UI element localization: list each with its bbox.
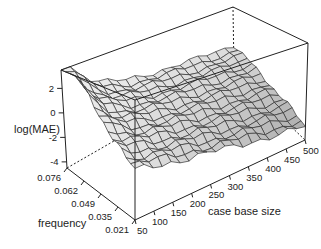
size-tick-label: 100 [152, 216, 168, 227]
size-tick-label: 450 [284, 154, 300, 165]
z-tick-label: 0 [50, 107, 55, 118]
frequency-tick-label: 0.021 [105, 224, 129, 235]
size-tick-label: 200 [190, 198, 206, 209]
frequency-tick-label: 0.076 [37, 172, 61, 183]
frequency-tick-label: 0.049 [71, 198, 95, 209]
frequency-tick-label: 0.035 [88, 211, 112, 222]
frequency-tick-label: 0.062 [54, 185, 78, 196]
mesh-surface [61, 48, 305, 169]
z-axis-label: log(MAE) [14, 123, 60, 135]
size-tick-label: 50 [137, 225, 148, 236]
size-tick-label: 350 [246, 172, 262, 183]
size-tick-label: 300 [227, 181, 243, 192]
surface-plot: -4-202 0.0210.0350.0490.0620.076 5010015… [0, 0, 321, 249]
size-tick-label: 250 [209, 189, 225, 200]
size-tick-label: 400 [265, 163, 281, 174]
x-axis-label: case base size [208, 205, 281, 217]
z-tick-label: 2 [49, 83, 54, 94]
size-tick-label: 500 [303, 145, 319, 156]
z-tick-label: -4 [50, 156, 58, 167]
size-tick-label: 150 [171, 207, 187, 218]
chart-container: -4-202 0.0210.0350.0490.0620.076 5010015… [0, 0, 321, 249]
y-axis-label: frequency [38, 217, 87, 229]
